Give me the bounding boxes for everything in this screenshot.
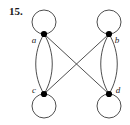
edge-b-d-left [101, 34, 109, 94]
vertex-c [41, 91, 47, 97]
vertex-label-a: a [32, 35, 37, 45]
vertex-label-b: b [115, 35, 120, 45]
figure-container: 15. a b c d [0, 0, 130, 125]
vertex-label-d: d [116, 85, 121, 95]
vertex-label-group: a b c d [32, 35, 121, 95]
self-loop-d [97, 94, 121, 118]
vertex-label-c: c [32, 85, 36, 95]
edge-a-c-right [44, 34, 52, 94]
self-loop-c [32, 94, 56, 118]
vertex-a [41, 31, 47, 37]
straight-edge-group [44, 34, 109, 94]
self-loop-a [32, 10, 56, 34]
multigraph-diagram: a b c d [0, 0, 130, 125]
vertex-b [106, 31, 112, 37]
self-loop-b [97, 10, 121, 34]
edge-a-c-left [36, 34, 44, 94]
vertex-d [106, 91, 112, 97]
